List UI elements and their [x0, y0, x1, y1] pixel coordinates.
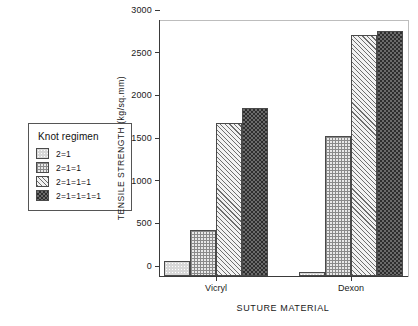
y-axis-tick: 1500 — [131, 133, 160, 143]
y-axis-tick-label: 1500 — [131, 133, 152, 143]
y-axis-tick-mark — [155, 138, 160, 139]
bar — [351, 35, 377, 276]
y-axis-tick: 0 — [147, 261, 160, 271]
y-axis-tick: 3000 — [131, 5, 160, 15]
bar — [377, 31, 403, 276]
y-axis-tick-label: 1000 — [131, 176, 152, 186]
y-axis-title: TENSILE STRENGTH (kg/sq.mm) — [116, 76, 126, 220]
bar — [190, 230, 216, 276]
y-axis-tick: 2500 — [131, 48, 160, 58]
y-axis-tick-label: 3000 — [131, 5, 152, 15]
y-axis-tick-mark — [155, 52, 160, 53]
y-axis-tick-mark — [155, 223, 160, 224]
y-axis-tick-label: 0 — [147, 261, 152, 271]
x-axis-tick-label: Dexon — [338, 283, 364, 293]
y-axis-tick-mark — [155, 180, 160, 181]
x-axis-title: SUTURE MATERIAL — [237, 303, 330, 313]
y-axis-tick-mark — [155, 10, 160, 11]
y-axis-tick: 1000 — [131, 176, 160, 186]
y-axis-tick-mark — [155, 95, 160, 96]
bar — [242, 108, 268, 276]
x-axis-tick-label: Vicryl — [205, 283, 227, 293]
bar-chart: TENSILE STRENGTH (kg/sq.mm) 050010001500… — [0, 0, 418, 326]
y-axis-tick-mark — [155, 266, 160, 267]
bar — [325, 136, 351, 276]
x-axis-tick-mark — [216, 276, 217, 281]
y-axis-tick-label: 2000 — [131, 90, 152, 100]
y-axis-tick: 2000 — [131, 90, 160, 100]
bar — [216, 123, 242, 276]
bar — [299, 272, 325, 276]
plot-area: 050010001500200025003000VicrylDexon — [159, 20, 408, 277]
bar — [164, 261, 190, 276]
y-axis-tick: 500 — [136, 218, 160, 228]
y-axis-tick-label: 2500 — [131, 48, 152, 58]
y-axis-tick-label: 500 — [136, 218, 152, 228]
plot-frame-right — [408, 20, 409, 277]
x-axis-tick-mark — [351, 276, 352, 281]
